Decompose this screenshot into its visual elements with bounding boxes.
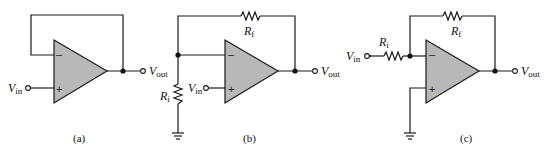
vout-label-c: Vout (521, 64, 540, 79)
input-terminal-c (365, 54, 370, 59)
output-terminal-b (313, 69, 318, 74)
vout-label-b: Vout (321, 64, 340, 79)
caption-b: (b) (243, 132, 256, 145)
ground-icon-b (172, 133, 184, 139)
ground-icon-c (404, 133, 416, 139)
plus-to-ground-wire-c (410, 88, 426, 133)
vin-label-b: Vin (188, 81, 203, 96)
minus-sign-c: – (429, 48, 436, 60)
output-terminal-a (141, 69, 146, 74)
plus-sign-c: + (429, 83, 435, 95)
feedback-resistor-b (241, 12, 260, 20)
caption-a: (a) (73, 132, 86, 145)
input-terminal-a (26, 86, 31, 91)
rf-label-b: Rf (243, 24, 254, 39)
junction-node-a (120, 68, 125, 73)
plus-sign-b: + (228, 83, 234, 95)
minus-sign-b: – (228, 48, 235, 60)
vin-label-c: Vin (346, 49, 361, 64)
circuit-c: Vin Ri Rf – + (346, 12, 540, 145)
ri-label-c: Ri (378, 35, 389, 50)
output-terminal-c (513, 69, 518, 74)
feedback-wire-right-b (260, 16, 295, 71)
input-resistor-b (174, 84, 182, 104)
minus-sign-a: – (56, 48, 63, 60)
input-terminal-b (204, 86, 209, 91)
opamp-circuits-figure: – + Vout Vin (a) Rf Ri – + (0, 0, 546, 155)
feedback-resistor-c (443, 12, 462, 20)
feedback-wire-right-c (462, 16, 495, 71)
rf-label-c: Rf (450, 24, 461, 39)
caption-c: (c) (460, 132, 473, 145)
vin-label-a: Vin (8, 81, 23, 96)
junction-node-b-right (292, 68, 297, 73)
circuit-b: Rf Ri – + Vin Vout (b) (159, 12, 340, 145)
plus-sign-a: + (56, 83, 62, 95)
vout-label-a: Vout (149, 64, 168, 79)
input-resistor-c (384, 52, 403, 60)
circuit-a: – + Vout Vin (a) (8, 15, 168, 145)
junction-node-c-right (492, 68, 497, 73)
ri-label-b: Ri (159, 89, 170, 104)
